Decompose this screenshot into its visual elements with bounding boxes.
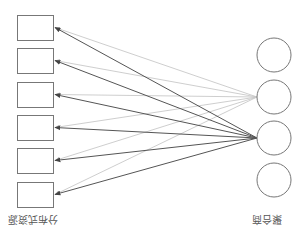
edge-c3-r2 [55, 61, 257, 139]
left-node-group [18, 16, 54, 208]
rect-node-1 [18, 16, 54, 41]
circle-node-1 [257, 38, 291, 72]
right-group-label: 聚合商 [252, 213, 282, 228]
edge-c2-r2 [55, 61, 257, 98]
rect-node-3 [18, 83, 54, 108]
right-node-group [257, 38, 291, 197]
rect-node-6 [18, 183, 54, 208]
edge-c3-r3 [55, 95, 257, 139]
edge-c2-r4 [55, 97, 257, 128]
edge-c3-r6 [55, 138, 257, 195]
edge-c2-r3 [55, 95, 257, 98]
circle-node-2 [257, 80, 291, 114]
edge-layer [55, 28, 257, 195]
edge-c2-r6 [55, 97, 257, 195]
edge-c3-r1 [55, 28, 257, 139]
left-group-label: 分布式资源 [8, 213, 58, 228]
rect-node-5 [18, 149, 54, 174]
circle-node-3 [257, 121, 291, 155]
edge-c2-r1 [55, 28, 257, 98]
circle-node-4 [257, 163, 291, 197]
rect-node-4 [18, 116, 54, 141]
rect-node-2 [18, 49, 54, 74]
network-diagram [0, 0, 301, 233]
edge-c3-r5 [55, 138, 257, 161]
